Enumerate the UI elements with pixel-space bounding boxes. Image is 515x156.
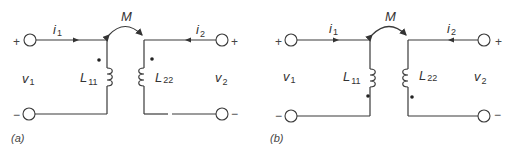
current-i2-label: i2 — [447, 21, 456, 37]
current-i1-arrow-icon — [73, 38, 79, 43]
minus-sign-2: − — [494, 108, 501, 122]
panel-a-caption: (a) — [11, 132, 25, 144]
panel-b: M i1 i2 v1 v2 L11 L22 + − + − (b) — [270, 9, 502, 144]
terminal-1-minus — [23, 108, 35, 120]
current-i2-arrow-icon — [185, 38, 191, 43]
inductor-l22-coil — [403, 69, 408, 87]
polarity-dot-l11 — [97, 58, 101, 62]
inductor-l11-coil — [107, 68, 112, 86]
inductor-l11-label: L11 — [343, 69, 361, 86]
current-i1-arrow-icon — [333, 38, 339, 43]
voltage-v2-label: v2 — [474, 69, 487, 86]
terminal-2-minus — [478, 110, 490, 122]
terminal-1-plus — [285, 34, 297, 46]
current-i2-arrow-icon — [448, 38, 454, 43]
plus-sign-1: + — [275, 35, 282, 49]
inductor-l22-label: L22 — [155, 70, 173, 85]
mutual-label: M — [121, 9, 132, 24]
terminal-1-plus — [24, 34, 36, 46]
plus-sign-1: + — [13, 35, 20, 49]
terminal-2-plus — [478, 34, 490, 46]
minus-sign-2: − — [231, 107, 238, 121]
inductor-l11-coil — [370, 69, 375, 87]
plus-sign-2: + — [231, 35, 238, 49]
polarity-dot-l22 — [150, 57, 154, 61]
voltage-v2-label: v2 — [215, 70, 228, 87]
current-i2-label: i2 — [196, 22, 205, 39]
current-i1-label: i1 — [53, 22, 62, 38]
voltage-v1-label: v1 — [283, 69, 296, 85]
mutual-label: M — [385, 9, 396, 24]
panel-b-caption: (b) — [270, 132, 284, 144]
coupled-inductor-figure: M i1 i2 v1 v2 L11 L22 + − + − (a) M — [0, 0, 515, 156]
plus-sign-2: + — [495, 35, 502, 49]
voltage-v1-label: v1 — [22, 71, 35, 87]
polarity-dot-l11 — [366, 94, 370, 98]
terminal-2-minus — [216, 108, 228, 120]
terminal-2-plus — [216, 34, 228, 46]
current-i1-label: i1 — [329, 21, 338, 37]
inductor-l11-label: L11 — [80, 70, 98, 87]
panel-a: M i1 i2 v1 v2 L11 L22 + − + − (a) — [11, 9, 238, 144]
minus-sign-1: − — [13, 108, 20, 122]
minus-sign-1: − — [275, 109, 282, 123]
inductor-l22-label: L22 — [419, 68, 437, 83]
mutual-coupling-arc — [109, 27, 142, 36]
inductor-l22-coil — [139, 68, 144, 86]
terminal-1-minus — [285, 110, 297, 122]
polarity-dot-l22 — [410, 95, 414, 99]
mutual-coupling-arc — [372, 27, 406, 36]
